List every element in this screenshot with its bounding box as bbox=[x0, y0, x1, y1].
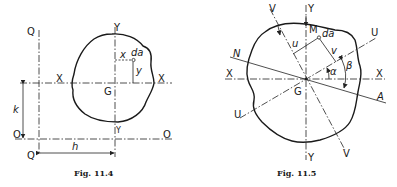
label-a: A bbox=[376, 91, 384, 102]
label-da: da bbox=[131, 47, 143, 58]
label-u-distance: u bbox=[292, 38, 298, 49]
label-v-distance: v bbox=[331, 45, 338, 56]
label-k-distance: k bbox=[13, 104, 20, 115]
element-da-point bbox=[317, 36, 320, 39]
label-y-bottom: Y bbox=[115, 126, 121, 135]
figure-11-4: Q Q Y Y X X O O G da x y k h Fig. 11.4 bbox=[13, 22, 172, 178]
label-x-distance: x bbox=[119, 49, 126, 60]
label-q-top: Q bbox=[27, 26, 35, 37]
label-m: M bbox=[309, 24, 318, 35]
neutral-axis-line bbox=[230, 57, 386, 103]
v-axis-arrow bbox=[278, 26, 280, 35]
label-y-bottom: Y bbox=[307, 152, 315, 163]
label-n: N bbox=[233, 48, 241, 59]
label-x-right: X bbox=[158, 73, 165, 84]
label-u-left: U bbox=[234, 109, 241, 120]
label-beta: β bbox=[345, 60, 353, 71]
label-v-bottom: V bbox=[343, 148, 350, 159]
label-da: da bbox=[322, 28, 334, 39]
label-y-distance: y bbox=[135, 65, 143, 76]
label-alpha: α bbox=[330, 66, 337, 77]
label-u-right: U bbox=[371, 27, 378, 38]
label-y-top: Y bbox=[307, 3, 315, 14]
centroid-point bbox=[305, 78, 308, 81]
label-centroid-g: G bbox=[294, 86, 302, 97]
label-x-right: X bbox=[376, 68, 383, 79]
label-q-bottom: Q bbox=[27, 150, 35, 161]
label-v-top: V bbox=[269, 3, 276, 14]
label-y-top: Y bbox=[113, 22, 121, 33]
label-o-right: O bbox=[163, 129, 171, 140]
element-da-point bbox=[132, 58, 135, 61]
label-x-left: X bbox=[226, 68, 233, 79]
caption-fig-11-4: Fig. 11.4 bbox=[74, 168, 114, 178]
label-h-distance: h bbox=[72, 141, 78, 152]
figure-11-5: V V Y Y X X U U N A G M da u v α β Fig. … bbox=[225, 3, 386, 178]
label-o-left: O bbox=[13, 129, 21, 140]
caption-fig-11-5: Fig. 11.5 bbox=[277, 168, 316, 178]
alpha-angle-arc bbox=[327, 68, 329, 79]
label-centroid-g: G bbox=[104, 86, 112, 97]
diagram-canvas: Q Q Y Y X X O O G da x y k h Fig. 11.4 bbox=[0, 0, 397, 187]
cross-section-outline bbox=[247, 23, 361, 142]
label-x-left: X bbox=[56, 73, 63, 84]
